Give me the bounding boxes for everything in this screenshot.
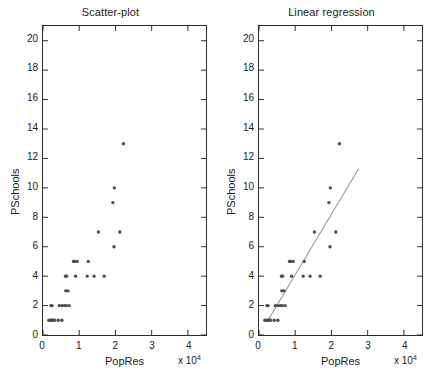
y-tick-label: 6 <box>14 240 38 251</box>
data-point <box>313 230 316 233</box>
x-tick-label: 2 <box>319 340 343 351</box>
data-point <box>65 274 68 277</box>
y-tick-label: 10 <box>14 181 38 192</box>
x-tick-label: 1 <box>283 340 307 351</box>
y-tick-label: 4 <box>14 270 38 281</box>
data-point <box>319 274 322 277</box>
data-point <box>92 274 95 277</box>
y-tick-label: 0 <box>230 329 254 340</box>
data-point <box>67 304 70 307</box>
data-point <box>60 319 63 322</box>
data-point <box>327 201 330 204</box>
data-point <box>103 274 106 277</box>
data-point <box>329 186 332 189</box>
y-tick-label: 8 <box>14 211 38 222</box>
data-point <box>283 304 286 307</box>
data-point <box>113 186 116 189</box>
y-tick-label: 16 <box>230 92 254 103</box>
y-tick-label: 10 <box>230 181 254 192</box>
y-tick-label: 4 <box>230 270 254 281</box>
x-tick-label: 1 <box>67 340 91 351</box>
y-tick-label: 18 <box>14 62 38 73</box>
data-point <box>75 260 78 263</box>
regression-plot-area <box>259 26 422 335</box>
x-axis-exponent-regression: x 104 <box>394 354 417 366</box>
data-point <box>111 201 114 204</box>
panel-title-scatter: Scatter-plot <box>0 6 221 18</box>
y-tick-label: 12 <box>14 151 38 162</box>
data-point <box>50 304 53 307</box>
y-tick-label: 6 <box>230 240 254 251</box>
y-tick-label: 14 <box>230 122 254 133</box>
data-point <box>87 260 90 263</box>
data-point <box>303 260 306 263</box>
data-point <box>266 304 269 307</box>
axes-regression <box>258 25 423 336</box>
y-tick-label: 16 <box>14 92 38 103</box>
data-point <box>269 319 272 322</box>
x-tick-label: 3 <box>140 340 164 351</box>
x-tick-label: 2 <box>103 340 127 351</box>
figure-canvas: Scatter-plot PSchools PopRes x 104 02468… <box>0 0 442 383</box>
exponent-power: 4 <box>197 354 201 361</box>
data-point <box>86 274 89 277</box>
data-point <box>290 274 293 277</box>
exponent-base: x 10 <box>178 355 197 366</box>
data-point <box>334 230 337 233</box>
panel-linear-regression: Linear regression PSchools PopRes x 104 … <box>221 0 442 383</box>
exponent-base: x 10 <box>394 355 413 366</box>
x-axis-exponent-scatter: x 104 <box>178 354 201 366</box>
data-point <box>65 304 68 307</box>
y-tick-label: 14 <box>14 122 38 133</box>
data-point <box>302 274 305 277</box>
data-point <box>282 289 285 292</box>
data-point <box>74 274 77 277</box>
y-tick-label: 2 <box>14 299 38 310</box>
data-point <box>308 274 311 277</box>
panel-title-regression: Linear regression <box>221 6 442 18</box>
panel-scatter-plot: Scatter-plot PSchools PopRes x 104 02468… <box>0 0 221 383</box>
y-tick-label: 0 <box>14 329 38 340</box>
x-tick-label: 4 <box>393 340 417 351</box>
y-tick-label: 12 <box>230 151 254 162</box>
data-point <box>66 289 69 292</box>
data-point <box>276 319 279 322</box>
y-tick-label: 18 <box>230 62 254 73</box>
data-point <box>122 142 125 145</box>
axes-scatter <box>42 25 207 336</box>
data-point <box>281 274 284 277</box>
y-tick-label: 8 <box>230 211 254 222</box>
data-point <box>281 304 284 307</box>
y-tick-label: 20 <box>230 33 254 44</box>
data-point <box>53 319 56 322</box>
data-point <box>118 230 121 233</box>
y-tick-label: 20 <box>14 33 38 44</box>
regression-line <box>268 169 359 321</box>
x-tick-label: 4 <box>177 340 201 351</box>
x-tick-label: 0 <box>246 340 270 351</box>
data-point <box>273 319 276 322</box>
y-tick-label: 2 <box>230 299 254 310</box>
data-point <box>97 230 100 233</box>
data-point <box>112 245 115 248</box>
scatter-plot-area <box>43 26 206 335</box>
data-point <box>338 142 341 145</box>
data-point <box>57 319 60 322</box>
exponent-power: 4 <box>413 354 417 361</box>
data-point <box>328 245 331 248</box>
data-point <box>291 260 294 263</box>
x-tick-label: 0 <box>30 340 54 351</box>
x-tick-label: 3 <box>356 340 380 351</box>
